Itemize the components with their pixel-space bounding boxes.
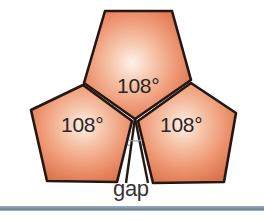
gap-label: gap	[113, 176, 149, 202]
angle-label-left: 108°	[61, 113, 103, 137]
angle-label-right: 108°	[160, 113, 202, 137]
horizontal-rule	[0, 206, 264, 211]
angle-label-top: 108°	[117, 74, 159, 98]
